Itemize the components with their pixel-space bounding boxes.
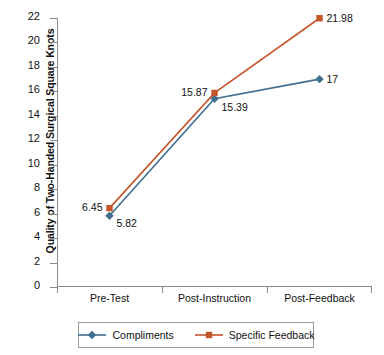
y-tick-label: 10 (28, 157, 40, 169)
point-value-label: 5.82 (117, 217, 137, 229)
y-tick: 22 (50, 18, 57, 19)
series-lines (57, 18, 372, 287)
y-tick: 12 (50, 140, 57, 141)
data-point-marker (211, 90, 217, 96)
y-tick: 10 (50, 165, 57, 166)
y-tick-label: 8 (34, 181, 40, 193)
y-tick-label: 6 (34, 206, 40, 218)
x-axis-label-post-instruction: Post-Instruction (178, 292, 251, 304)
y-tick: 20 (50, 42, 57, 43)
x-axis-label-pre-test: Pre-Test (90, 292, 129, 304)
y-tick: 6 (50, 214, 57, 215)
y-tick: 4 (50, 238, 57, 239)
line-chart: Quality of Two-Handed Surgical Square Kn… (0, 0, 384, 355)
point-value-label: 17 (327, 73, 339, 85)
y-tick-label: 0 (34, 279, 40, 291)
point-value-label: 15.39 (222, 101, 248, 113)
x-tick (57, 287, 58, 293)
y-tick-label: 4 (34, 230, 40, 242)
y-tick: 2 (50, 263, 57, 264)
x-tick (371, 287, 372, 293)
data-point-marker (316, 15, 322, 21)
y-tick-label: 12 (28, 132, 40, 144)
y-tick-label: 20 (28, 34, 40, 46)
y-tick: 8 (50, 189, 57, 190)
chart-legend: ComplimentsSpecific Feedback (78, 322, 314, 348)
y-tick: 16 (50, 91, 57, 92)
y-tick: 0 (50, 287, 57, 288)
y-tick-label: 14 (28, 108, 40, 120)
y-tick-label: 18 (28, 59, 40, 71)
y-tick: 18 (50, 67, 57, 68)
legend-entry-compliments[interactable]: Compliments (77, 329, 173, 341)
point-value-label: 15.87 (181, 86, 207, 98)
x-tick (267, 287, 268, 293)
point-value-label: 21.98 (327, 12, 353, 24)
y-tick-label: 16 (28, 83, 40, 95)
legend-entry-specific-feedback[interactable]: Specific Feedback (194, 329, 315, 341)
x-tick (162, 287, 163, 293)
point-value-label: 6.45 (82, 201, 102, 213)
legend-label: Specific Feedback (229, 329, 315, 341)
y-tick: 14 (50, 116, 57, 117)
plot-area: 2220181614121086420 5.8215.39176.4515.87… (57, 18, 372, 287)
legend-square-icon (194, 329, 224, 341)
legend-label: Compliments (112, 329, 173, 341)
y-tick-label: 2 (34, 255, 40, 267)
legend-diamond-icon (77, 329, 107, 341)
data-point-marker (315, 75, 323, 83)
data-point-marker (106, 205, 112, 211)
y-tick-label: 22 (28, 10, 40, 22)
x-axis-label-post-feedback: Post-Feedback (284, 292, 355, 304)
